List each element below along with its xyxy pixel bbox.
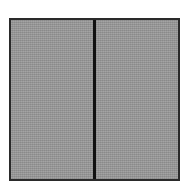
split-rectangle [9, 18, 180, 181]
right-panel [96, 20, 178, 179]
left-panel [11, 20, 93, 179]
